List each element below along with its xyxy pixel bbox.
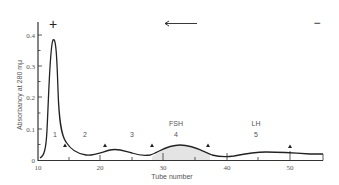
y-tick-label: 0.4 <box>26 32 35 40</box>
x-tick-label: 40 <box>224 164 232 172</box>
marker-triangle <box>288 145 292 149</box>
marker-triangle <box>206 144 210 148</box>
fsh-shaded-area <box>152 145 210 160</box>
fraction-label-1: 1 <box>53 131 57 138</box>
x-axis-title: Tube number <box>151 173 193 180</box>
plus-sign: + <box>49 16 57 32</box>
lh-label: LH <box>252 120 261 127</box>
absorbancy-curve <box>40 40 323 158</box>
fraction-label-2: 2 <box>83 131 87 138</box>
chromatography-chart: 0.4 0.3 0.2 0.1 0 10 20 30 40 50 Tube nu… <box>0 0 339 185</box>
y-tick-label: 0.2 <box>26 94 35 102</box>
x-tick-label: 30 <box>160 164 168 172</box>
y-axis-title: Absorbancy at 280 mμ <box>16 60 24 130</box>
minus-sign: − <box>313 16 320 30</box>
marker-triangle <box>63 144 67 148</box>
fsh-label: FSH <box>169 120 183 127</box>
y-tick-label: 0.1 <box>26 126 35 134</box>
marker-triangle <box>103 144 107 148</box>
fraction-label-4: 4 <box>174 131 178 138</box>
marker-triangle <box>150 144 154 148</box>
fraction-label-3: 3 <box>130 131 134 138</box>
x-tick-label: 10 <box>35 164 43 172</box>
x-tick-label: 50 <box>287 164 295 172</box>
x-tick-label: 20 <box>97 164 105 172</box>
fraction-label-5: 5 <box>254 131 258 138</box>
left-arrow-icon <box>165 21 197 26</box>
y-tick-label: 0.3 <box>26 63 35 71</box>
